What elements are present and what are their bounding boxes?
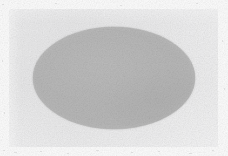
image-canvas xyxy=(0,0,228,156)
gray-ellipse-shape xyxy=(33,27,195,129)
figure-panel xyxy=(9,9,218,147)
